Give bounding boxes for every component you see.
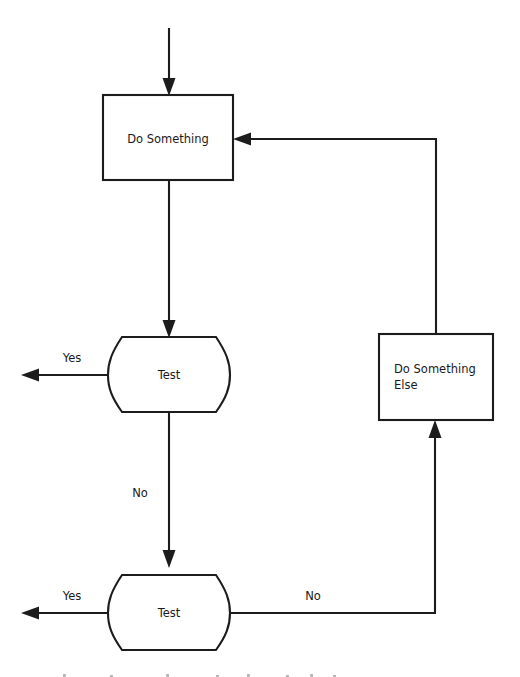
- edge-test-1-no: [163, 412, 176, 568]
- edge-label-test-2-no: No: [305, 589, 321, 603]
- edge-label-test-1-yes: Yes: [62, 351, 82, 365]
- node-test-1[interactable]: Test: [108, 337, 230, 412]
- edge-label-test-2-yes: Yes: [62, 589, 82, 603]
- node-do-something-else-label-line-2: Else: [394, 378, 418, 392]
- edge-test-2-yes: [21, 607, 108, 620]
- node-test-1-label: Test: [157, 368, 181, 382]
- edge-label-test-1-no: No: [132, 486, 148, 500]
- edge-test-2-no: [230, 420, 442, 613]
- flowchart-canvas: Do Something Test Do Something Else Test…: [0, 0, 520, 677]
- edge-do-something-to-test-1: [163, 180, 176, 338]
- edge-do-something-else-loop: [233, 133, 437, 335]
- node-do-something[interactable]: Do Something: [103, 95, 233, 180]
- node-do-something-else[interactable]: Do Something Else: [379, 334, 493, 420]
- node-do-something-label: Do Something: [127, 132, 209, 146]
- flowchart-svg: Do Something Test Do Something Else Test…: [0, 0, 520, 677]
- edge-entry: [163, 28, 176, 96]
- node-do-something-else-label-line-1: Do Something: [394, 362, 476, 376]
- node-test-2[interactable]: Test: [108, 575, 230, 650]
- node-test-2-label: Test: [157, 606, 181, 620]
- edge-test-1-yes: [21, 369, 108, 382]
